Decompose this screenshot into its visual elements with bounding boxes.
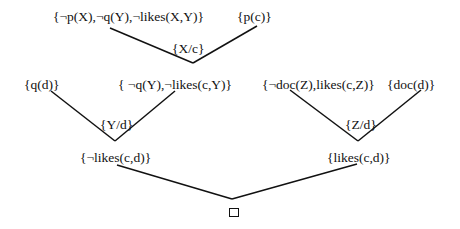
tree-edges	[0, 0, 460, 229]
clause-c3: {q(d)}	[24, 77, 59, 93]
clause-c4: { ¬q(Y),¬likes(c,Y)}	[118, 77, 232, 93]
clause-c7: {¬likes(c,d)}	[80, 150, 151, 166]
substitution-s1: {X/c}	[172, 41, 204, 57]
edge-c7-to-empty	[117, 165, 232, 199]
edge-c5-to-c8	[290, 90, 358, 141]
edge-c8-to-empty	[232, 164, 357, 199]
clause-c1: {¬p(X),¬q(Y),¬likes(X,Y)}	[53, 9, 204, 25]
clause-c6: {doc(d)}	[387, 77, 435, 93]
edge-c4-to-c7	[115, 91, 175, 141]
clause-c2: {p(c)}	[237, 9, 272, 25]
edge-c6-to-c8	[358, 90, 421, 141]
edge-c3-to-c7	[51, 91, 115, 141]
empty-clause-box-icon	[229, 208, 239, 217]
substitution-s2: {Y/d}	[100, 117, 133, 133]
clause-c8: {likes(c,d)}	[327, 150, 391, 166]
clause-c5: {¬doc(Z),likes(c,Z)}	[262, 77, 375, 93]
substitution-s3: {Z/d}	[345, 117, 377, 133]
